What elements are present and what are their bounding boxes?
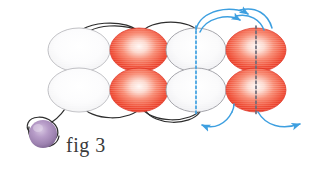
purple-sphere-body xyxy=(29,120,57,148)
purple-sphere xyxy=(29,120,57,148)
red-orbital-pair-2 xyxy=(226,26,286,114)
pale-orbital-pair-1 xyxy=(166,26,226,114)
electron-flow-bottom-left xyxy=(202,112,232,127)
electron-flow-top-inner-tail xyxy=(236,15,264,30)
red-orbital-pair-1 xyxy=(110,28,168,112)
figure-container: fig 3 xyxy=(0,0,320,178)
electron-flow-bottom-left-tail xyxy=(232,104,234,112)
white-orbital-pair-1 xyxy=(48,28,110,112)
orbital-white-top-texture xyxy=(48,28,110,72)
electron-flow-bottom-right xyxy=(258,112,300,127)
figure-caption: fig 3 xyxy=(66,134,106,157)
figure-diagram: fig 3 xyxy=(0,0,320,178)
orbital-white-bottom-texture xyxy=(48,68,110,112)
purple-sphere-highlight xyxy=(33,124,43,132)
orbital-red-bottom-texture xyxy=(110,68,168,112)
orbital-red-top-texture xyxy=(110,28,168,72)
